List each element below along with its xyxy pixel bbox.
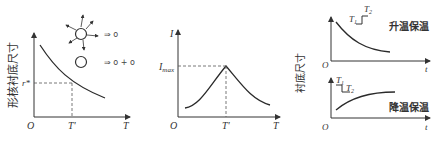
t1-label: T1 xyxy=(349,14,357,25)
step-up-icon xyxy=(356,16,368,24)
origin-label: O xyxy=(322,60,329,70)
panel-critical-size: r* O T' T 形核衬底尺寸 ⇒ o ⇒ o + o xyxy=(6,15,135,131)
cooling-hold-label: 降温保温 xyxy=(389,101,429,113)
imax-label: Imax xyxy=(158,61,175,74)
t2-label: T2 xyxy=(364,4,372,15)
x-axis-label: t xyxy=(425,122,428,132)
subplot-cooling-hold: T1 T2 降温保温 O t xyxy=(322,75,430,132)
origin-label: O xyxy=(27,120,34,131)
x-axis-label: T xyxy=(273,120,280,131)
origin-label: O xyxy=(170,120,177,131)
diagram-canvas: r* O T' T 形核衬底尺寸 ⇒ o ⇒ o + o I Imax O T'… xyxy=(0,0,434,145)
t-prime-label: T' xyxy=(222,120,231,131)
heating-hold-label: 升温保温 xyxy=(389,20,429,32)
r-star-label: r* xyxy=(22,78,31,88)
arrow-label-2: ⇒ o + o xyxy=(104,58,135,67)
x-axis-label: T xyxy=(123,120,130,131)
decreasing-curve xyxy=(336,22,390,52)
arrow-label-1: ⇒ o xyxy=(104,30,118,39)
growing-nucleus-icon xyxy=(66,15,98,50)
t1-label: T1 xyxy=(336,75,344,86)
panel-substrate-size: 衬底尺寸 T1 T2 升温保温 O t T1 T2 降温保温 O t xyxy=(294,4,430,132)
panel-nucleation-rate: I Imax O T' T xyxy=(158,28,280,131)
t-prime-label: T' xyxy=(68,120,77,131)
bell-curve xyxy=(185,66,270,108)
x-axis-label: t xyxy=(425,64,428,74)
increasing-curve xyxy=(336,92,395,110)
decreasing-curve xyxy=(40,45,105,98)
y-axis-label: 形核衬底尺寸 xyxy=(6,42,20,108)
y-axis-label: I xyxy=(169,28,174,39)
origin-label: O xyxy=(322,122,329,132)
t2-label: T2 xyxy=(346,83,354,94)
y-axis-label: 衬底尺寸 xyxy=(294,53,306,93)
subplot-heating-hold: T1 T2 升温保温 O t xyxy=(322,4,430,74)
nucleus-circle-icon xyxy=(76,57,87,68)
